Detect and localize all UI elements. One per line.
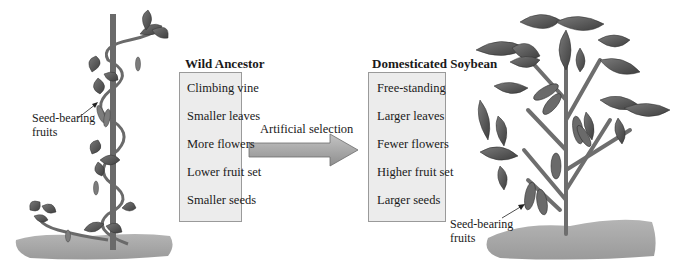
artificial-selection-label: Artificial selection — [260, 122, 353, 137]
wild-fruit-label: Seed-bearing fruits — [32, 111, 95, 139]
wild-ancestor-traits-box: Climbing vine Smaller leaves More flower… — [179, 72, 242, 222]
wild-fruit-label-line1: Seed-bearing — [32, 111, 95, 125]
domesticated-trait: Higher fruit set — [377, 165, 453, 180]
selection-arrow — [249, 134, 358, 166]
domesticated-fruit-label-line2: fruits — [450, 231, 513, 245]
wild-trait: Lower fruit set — [187, 165, 261, 180]
domesticated-trait: Larger leaves — [377, 109, 444, 124]
domesticated-trait: Larger seeds — [377, 193, 440, 208]
domesticated-fruit-label: Seed-bearing fruits — [450, 217, 513, 245]
domesticated-trait: Free-standing — [377, 81, 446, 96]
domesticated-traits-box: Free-standing Larger leaves Fewer flower… — [368, 72, 446, 222]
domesticated-soybean-title: Domesticated Soybean — [372, 56, 497, 72]
wild-trait: Smaller leaves — [187, 109, 260, 124]
wild-trait: More flowers — [187, 137, 255, 152]
domesticated-trait: Fewer flowers — [377, 137, 449, 152]
wild-ancestor-title: Wild Ancestor — [185, 56, 265, 72]
wild-trait: Climbing vine — [187, 81, 259, 96]
wild-trait: Smaller seeds — [187, 193, 256, 208]
wild-fruit-label-line2: fruits — [32, 125, 95, 139]
domesticated-fruit-label-line1: Seed-bearing — [450, 217, 513, 231]
wild-support-pole — [110, 14, 116, 250]
